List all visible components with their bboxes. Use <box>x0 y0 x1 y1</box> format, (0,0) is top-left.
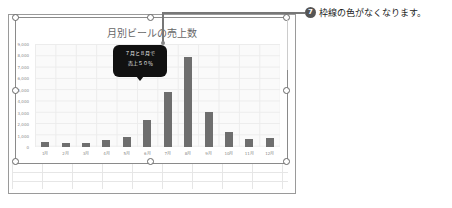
chart-title[interactable]: 月別ビールの売上数 <box>16 25 287 40</box>
y-axis-tick-label: 5,000 <box>18 87 29 92</box>
y-axis-tick-label: 9,000 <box>18 42 29 47</box>
x-axis-category-label: 7月 <box>158 150 178 156</box>
bar-3[interactable] <box>82 143 90 147</box>
x-axis-category-label: 1月 <box>35 150 55 156</box>
resize-handle-top-left[interactable] <box>12 14 19 21</box>
resize-handle-bottom[interactable] <box>147 158 154 165</box>
resize-handle-bottom-right[interactable] <box>283 158 290 165</box>
step-number-badge: 7 <box>305 7 316 18</box>
leader-line <box>162 12 164 42</box>
x-axis-category-label: 8月 <box>178 150 198 156</box>
bar-8[interactable] <box>184 57 192 147</box>
bar-12[interactable] <box>266 138 274 147</box>
x-axis-category-label: 5月 <box>117 150 137 156</box>
resize-handle-left[interactable] <box>12 87 19 94</box>
y-axis-tick-label: 1,000 <box>18 133 29 138</box>
bar-5[interactable] <box>123 137 131 147</box>
step-description: 枠線の色がなくなります。 <box>319 6 426 19</box>
bar-1[interactable] <box>41 142 49 147</box>
callout-anchor-dot <box>161 41 165 45</box>
x-axis-category-label: 10月 <box>219 150 239 156</box>
x-axis-category-label: 2月 <box>56 150 76 156</box>
y-axis-tick-label: 6,000 <box>18 76 29 81</box>
callout-line-1: ７月と８月で <box>113 48 167 58</box>
resize-handle-top[interactable] <box>147 14 154 21</box>
side-scrollbar[interactable] <box>287 20 293 70</box>
x-axis-category-label: 11月 <box>239 150 259 156</box>
bar-7[interactable] <box>164 92 172 147</box>
leader-line-horizontal <box>162 12 305 14</box>
bar-6[interactable] <box>143 120 151 147</box>
y-axis-tick-label: 8,000 <box>18 53 29 58</box>
worksheet-cells[interactable] <box>12 163 288 189</box>
x-axis-category-label: 9月 <box>199 150 219 156</box>
x-axis-category-label: 4月 <box>96 150 116 156</box>
y-axis-tick-label: 4,000 <box>18 99 29 104</box>
resize-handle-right[interactable] <box>283 87 290 94</box>
x-axis-category-label: 12月 <box>260 150 280 156</box>
bar-9[interactable] <box>205 112 213 147</box>
y-axis-tick-label: 3,000 <box>18 110 29 115</box>
y-axis-tick-label: 2,000 <box>18 122 29 127</box>
bar-10[interactable] <box>225 132 233 147</box>
y-axis-tick-label: 7,000 <box>18 64 29 69</box>
y-axis-tick-label: 0 <box>26 145 29 150</box>
x-axis-category-label: 3月 <box>76 150 96 156</box>
bar-4[interactable] <box>102 140 110 147</box>
bar-2[interactable] <box>62 143 70 147</box>
callout-line-2: 売上５０％ <box>113 58 167 68</box>
resize-handle-bottom-left[interactable] <box>12 158 19 165</box>
x-axis-category-label: 6月 <box>137 150 157 156</box>
bar-11[interactable] <box>245 139 253 147</box>
chart-area[interactable]: 月別ビールの売上数 01,0002,0003,0004,0005,0006,00… <box>15 17 288 164</box>
callout-shape[interactable]: ７月と８月で 売上５０％ <box>113 45 167 77</box>
